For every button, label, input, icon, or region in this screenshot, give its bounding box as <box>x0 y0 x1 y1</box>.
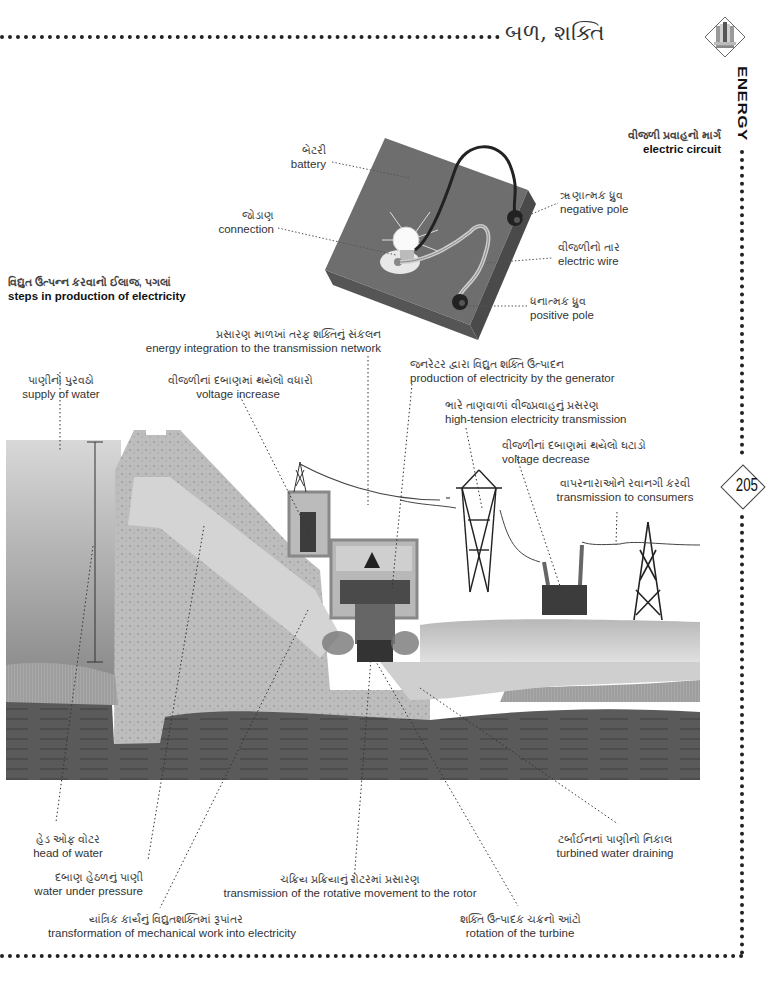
label-electric-wire: વીજળીનો તાર electric wire <box>558 240 620 268</box>
label-head-of-water: હેડ ઓફ વોટર head of water <box>32 832 104 860</box>
label-turbined-water-draining: ટર્બાઈનનાં પાણીનો નિકાલ turbined water d… <box>555 832 675 860</box>
distribution-tower-icon <box>634 522 662 620</box>
steps-title: વિદ્યુત ઉત્પન્ન કરવાનો ઈલાજ, પગલાં steps… <box>8 275 186 303</box>
label-supply-of-water: પાણીનો પુરવઠો supply of water <box>22 373 100 401</box>
label-voltage-increase: વીજળીનાં દબાણમાં થયેલો વધારો voltage inc… <box>168 373 308 401</box>
label-battery: બેટરી battery <box>291 143 326 171</box>
transmission-tower-icon <box>456 470 502 592</box>
label-connection: જોડાણ connection <box>218 208 274 236</box>
label-mechanical-to-electricity: યાંત્રિક કાર્યનું વિદ્યુતશક્તિમાં રૂપાંત… <box>48 912 284 940</box>
label-positive-pole: ધનાત્મક ધ્રુવ positive pole <box>530 294 594 322</box>
battery-icon <box>325 138 536 340</box>
label-rotation-of-turbine: શક્તિ ઉત્પાદક ચક્રનો આંટો rotation of th… <box>460 912 580 940</box>
label-high-tension-transmission: ભારે તાણવાળાં વીજપ્રવાહનું પ્રસરણ high-t… <box>445 398 627 426</box>
label-negative-pole: ૠણાત્મક ધ્રુવ negative pole <box>560 188 628 216</box>
label-transmission-to-consumers: વાપરનારાઓને રવાનગી કરવી transmission to … <box>550 476 700 504</box>
label-production-by-generator: જનરેટર દ્વારા વિદ્યુત શક્તિ ઉત્પાદન prod… <box>410 357 615 385</box>
label-energy-integration: પ્રસારણ માળખાં તરફ શક્તિનું સંકલન energy… <box>146 327 381 355</box>
label-rotative-movement-to-rotor: ચક્રિય પ્રક્રિયાનું રોટરમાં પ્રસારણ tran… <box>220 872 480 900</box>
label-water-under-pressure: દબાણ હેઠળનું પાણી water under pressure <box>34 870 143 898</box>
label-voltage-decrease: વીજળીનાં દબાણમાં થયેલો ઘટાડો voltage dec… <box>502 438 646 466</box>
